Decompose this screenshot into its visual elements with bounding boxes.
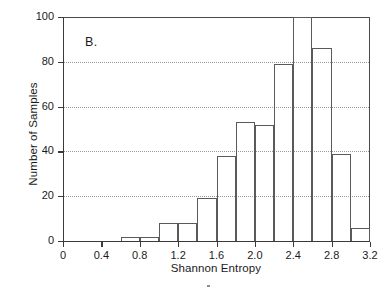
histogram-bar [332,154,351,241]
x-tick-label: 2.0 [235,249,275,261]
histogram-bar [236,122,255,241]
histogram-bar [274,64,293,241]
histogram-bar [178,223,197,241]
x-tick-mark [370,242,371,247]
x-tick-mark [293,242,294,247]
x-tick-label: 1.6 [197,249,237,261]
x-tick-mark [101,242,102,247]
histogram-figure: Number of Samples Shannon Entropy 020406… [0,0,385,296]
x-tick-mark [255,242,256,247]
x-tick-label: 2.4 [273,249,313,261]
histogram-bar [351,228,370,241]
y-tick-label: 100 [14,10,63,22]
histogram-bar [140,237,159,241]
histogram-bar [159,223,178,241]
x-axis-title: Shannon Entropy [62,262,370,274]
x-tick-label: 0 [43,249,83,261]
x-tick-label: 3.2 [350,249,385,261]
x-tick-label: 0.8 [120,249,160,261]
y-tick-label: 0 [14,234,63,246]
y-tick-label: 60 [14,100,63,112]
y-tick-label: 20 [14,189,63,201]
axis-top-spine [63,17,370,18]
histogram-bar [197,198,216,241]
histogram-bar [255,125,274,241]
y-tick-label: 80 [14,55,63,67]
y-tick-label: 40 [14,144,63,156]
axis-right-spine [369,17,370,241]
histogram-bar [293,17,312,241]
x-tick-mark [63,242,64,247]
x-tick-mark [332,242,333,247]
histogram-bar [312,48,331,241]
x-tick-label: 2.8 [312,249,352,261]
x-tick-mark [217,242,218,247]
histogram-bar [217,156,236,241]
axis-left-spine [63,17,64,241]
x-tick-mark [140,242,141,247]
x-tick-label: 1.2 [158,249,198,261]
plot-area: 020406080100 00.40.81.21.62.02.42.83.2 B… [63,17,370,241]
histogram-bar [121,237,140,241]
scan-speck [207,285,210,287]
x-tick-label: 0.4 [81,249,121,261]
x-tick-mark [178,242,179,247]
panel-letter: B. [85,35,97,49]
